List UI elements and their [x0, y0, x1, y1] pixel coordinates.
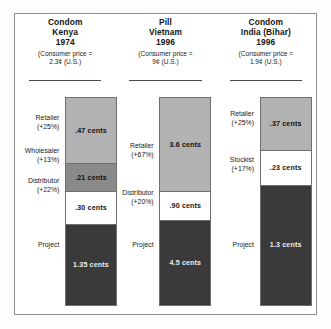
segment-value: .21 cents — [75, 174, 107, 182]
label-text: Distributor — [28, 177, 59, 184]
segment-value: 4.5 cents — [169, 259, 201, 267]
bar-segment-distributor: .90 cents — [160, 191, 210, 220]
segment-label-stockist: Stockist (+17%) — [230, 156, 254, 173]
consumer-price-line1: (Consumer price = — [138, 50, 192, 57]
panel-condom-kenya: Condom Kenya 1974 (Consumer price = 2.3¢… — [15, 14, 115, 314]
label-percent: (+25%) — [230, 119, 254, 128]
label-text: Retailer — [36, 114, 60, 121]
consumer-price-line1: (Consumer price = — [38, 50, 92, 57]
panel-year: 1996 — [115, 38, 215, 48]
segment-value: .30 cents — [75, 204, 107, 212]
figure-frame: Condom Kenya 1974 (Consumer price = 2.3¢… — [14, 13, 317, 315]
stacked-bar: 3.6 cents .90 cents 4.5 cents — [159, 97, 211, 306]
panel-condom-india-bihar: Condom India (Bihar) 1996 (Consumer pric… — [216, 14, 316, 314]
panel-year: 1996 — [216, 38, 316, 48]
stacked-bar: .37 cents .23 cents 1.3 cents — [260, 97, 312, 306]
segment-value: 1.35 cents — [73, 261, 109, 269]
label-text: Retailer — [230, 110, 254, 117]
label-percent: (+13%) — [25, 156, 59, 165]
header-divider — [129, 80, 201, 81]
panel-header: Pill Vietnam 1996 (Consumer price = 9¢ (… — [115, 18, 215, 66]
panel-row: Condom Kenya 1974 (Consumer price = 2.3¢… — [15, 14, 316, 314]
header-divider — [29, 80, 101, 81]
panel-pill-vietnam: Pill Vietnam 1996 (Consumer price = 9¢ (… — [115, 14, 215, 314]
label-text: Wholesaler — [25, 147, 59, 154]
panel-header: Condom Kenya 1974 (Consumer price = 2.3¢… — [15, 18, 115, 66]
segment-label-retailer: Retailer (+67%) — [130, 142, 154, 159]
bar-segment-retailer: 3.6 cents — [160, 98, 210, 191]
bar-segment-distributor: .30 cents — [66, 191, 116, 224]
bar-segment-project: 1.3 cents — [261, 185, 311, 305]
label-text: Retailer — [130, 142, 154, 149]
label-text: Distributor — [122, 189, 153, 196]
segment-label-distributor: Distributor (+20%) — [122, 189, 153, 206]
segment-label-project: Project — [38, 241, 59, 250]
label-percent: (+17%) — [230, 165, 254, 174]
segment-label-retailer: Retailer (+25%) — [36, 114, 60, 131]
panel-consumer-price: (Consumer price = 9¢ (U.S.) — [115, 50, 215, 66]
label-text: Project — [132, 241, 153, 248]
segment-label-retailer: Retailer (+25%) — [230, 110, 254, 127]
bar-segment-retailer: .47 cents — [66, 98, 116, 163]
segment-value: .47 cents — [75, 127, 107, 135]
label-text: Project — [233, 241, 254, 248]
bar-segment-wholesaler: .21 cents — [66, 163, 116, 191]
segment-value: .37 cents — [270, 120, 302, 128]
consumer-price-line1: (Consumer price = — [239, 50, 293, 57]
panel-consumer-price: (Consumer price = 1.9¢ (U.S.) — [216, 50, 316, 66]
label-text: Stockist — [230, 156, 254, 163]
panel-consumer-price: (Consumer price = 2.3¢ (U.S.) — [15, 50, 115, 66]
label-text: Project — [38, 241, 59, 248]
consumer-price-line2: 2.3¢ (U.S.) — [49, 58, 81, 65]
bar-segment-retailer: .37 cents — [261, 98, 311, 150]
consumer-price-line2: 1.9¢ (U.S.) — [250, 58, 282, 65]
bar-segment-project: 1.35 cents — [66, 224, 116, 305]
bar-segment-stockist: .23 cents — [261, 150, 311, 185]
panel-header: Condom India (Bihar) 1996 (Consumer pric… — [216, 18, 316, 66]
segment-label-wholesaler: Wholesaler (+13%) — [25, 147, 59, 164]
label-percent: (+25%) — [36, 123, 60, 132]
segment-value: 3.6 cents — [169, 141, 201, 149]
stacked-bar: .47 cents .21 cents .30 cents 1.35 cents — [65, 97, 117, 306]
panel-year: 1974 — [15, 38, 115, 48]
consumer-price-line2: 9¢ (U.S.) — [152, 58, 178, 65]
label-percent: (+22%) — [28, 186, 59, 195]
label-percent: (+67%) — [130, 151, 154, 160]
segment-label-distributor: Distributor (+22%) — [28, 177, 59, 194]
segment-label-project: Project — [132, 241, 153, 250]
segment-value: 1.3 cents — [270, 241, 302, 249]
segment-value: .90 cents — [169, 202, 201, 210]
header-divider — [230, 80, 302, 81]
bar-segment-project: 4.5 cents — [160, 220, 210, 305]
segment-value: .23 cents — [270, 164, 302, 172]
label-percent: (+20%) — [122, 198, 153, 207]
segment-label-project: Project — [233, 241, 254, 250]
